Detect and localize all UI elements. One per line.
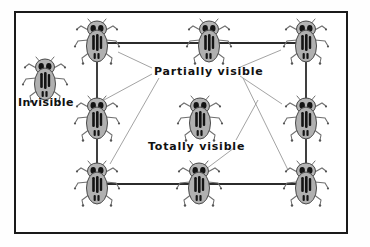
- bug-icon: [74, 19, 120, 65]
- leader-line: [118, 52, 152, 68]
- leader-line: [243, 78, 288, 170]
- leader-line: [236, 100, 258, 140]
- leader-line: [240, 76, 282, 104]
- bug-icon: [283, 19, 329, 65]
- bug-figures: [22, 19, 329, 207]
- bug-icon: [74, 96, 120, 142]
- diagram-canvas: Invisible Partially visible Totally visi…: [0, 0, 370, 247]
- bug-icon: [177, 96, 223, 142]
- label-invisible: Invisible: [18, 97, 74, 108]
- diagram-lines: [0, 0, 370, 247]
- leader-line: [104, 74, 152, 100]
- bug-icon: [283, 96, 329, 142]
- label-totally-visible: Totally visible: [148, 141, 245, 152]
- label-partially-visible: Partially visible: [154, 66, 264, 77]
- bug-icon: [186, 19, 232, 65]
